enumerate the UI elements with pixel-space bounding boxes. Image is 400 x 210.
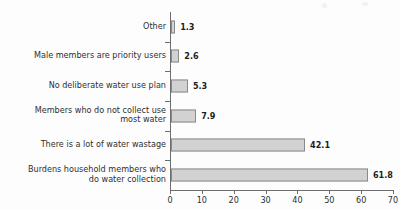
x-axis-tick-label: 20 (229, 195, 239, 205)
x-axis-tick (234, 190, 235, 194)
x-axis-tick (393, 190, 394, 194)
y-axis-tick (165, 160, 170, 161)
y-axis-tick (165, 131, 170, 132)
category-label: No deliberate water use plan (4, 81, 166, 91)
bar-value-label: 7.9 (201, 111, 215, 121)
category-label: Other (4, 22, 166, 32)
bar-row: No deliberate water use plan5.3 (0, 71, 400, 101)
category-label: Burdens household members who do water c… (4, 166, 166, 185)
y-axis-tick (165, 101, 170, 102)
x-axis-tick (170, 190, 171, 194)
scan-artifact (362, 2, 368, 6)
bar-row: Members who do not collect use most wate… (0, 101, 400, 131)
bar-value-label: 42.1 (310, 140, 330, 150)
bar-row: Burdens household members who do water c… (0, 160, 400, 190)
bar-value-label: 5.3 (193, 81, 207, 91)
x-axis-tick (297, 190, 298, 194)
y-axis-tick (165, 71, 170, 72)
x-axis-tick (329, 190, 330, 194)
scan-artifact (322, 3, 327, 8)
bar (171, 109, 196, 122)
bar-value-label: 1.3 (180, 22, 194, 32)
x-axis-tick-label: 70 (388, 195, 398, 205)
category-label: Members who do not collect use most wate… (4, 106, 166, 125)
category-label: Male members are priority users (4, 52, 166, 62)
x-axis-tick (266, 190, 267, 194)
bar (171, 80, 188, 93)
x-axis-tick (202, 190, 203, 194)
x-axis-tick-label: 40 (292, 195, 302, 205)
bar-row: Male members are priority users2.6 (0, 42, 400, 72)
bar-value-label: 2.6 (184, 51, 198, 61)
x-axis-tick-label: 0 (167, 195, 172, 205)
x-axis-line (170, 190, 393, 191)
x-axis-tick (361, 190, 362, 194)
bar-row: There is a lot of water wastage42.1 (0, 131, 400, 161)
bar (171, 139, 305, 152)
bar-row: Other1.3 (0, 12, 400, 42)
bar (171, 50, 179, 63)
x-axis-tick-label: 10 (197, 195, 207, 205)
bar (171, 169, 368, 182)
category-label: There is a lot of water wastage (4, 141, 166, 151)
bar (171, 20, 175, 33)
x-axis-tick-label: 30 (260, 195, 270, 205)
y-axis-tick (165, 42, 170, 43)
x-axis-tick-label: 60 (356, 195, 366, 205)
bar-value-label: 61.8 (373, 170, 393, 180)
x-axis-tick-label: 50 (324, 195, 334, 205)
bar-chart: Other1.3Male members are priority users2… (0, 0, 400, 210)
